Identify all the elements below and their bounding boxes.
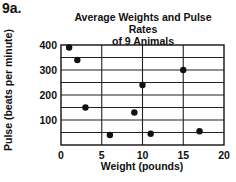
y-tick-label: 300 (39, 64, 57, 76)
data-point (147, 131, 153, 137)
y-tick-label: 400 (39, 39, 57, 51)
data-point (82, 104, 88, 110)
data-point (107, 132, 113, 138)
data-point (131, 109, 137, 115)
data-point (196, 128, 202, 134)
x-axis-label: Weight (pounds) (60, 160, 224, 172)
data-point (139, 82, 145, 88)
data-point (180, 67, 186, 73)
y-tick-label: 100 (39, 114, 57, 126)
scatter-plot: 10020030040005101520 (0, 0, 236, 182)
y-tick-label: 200 (39, 89, 57, 101)
data-point (66, 44, 72, 50)
data-point (74, 57, 80, 63)
